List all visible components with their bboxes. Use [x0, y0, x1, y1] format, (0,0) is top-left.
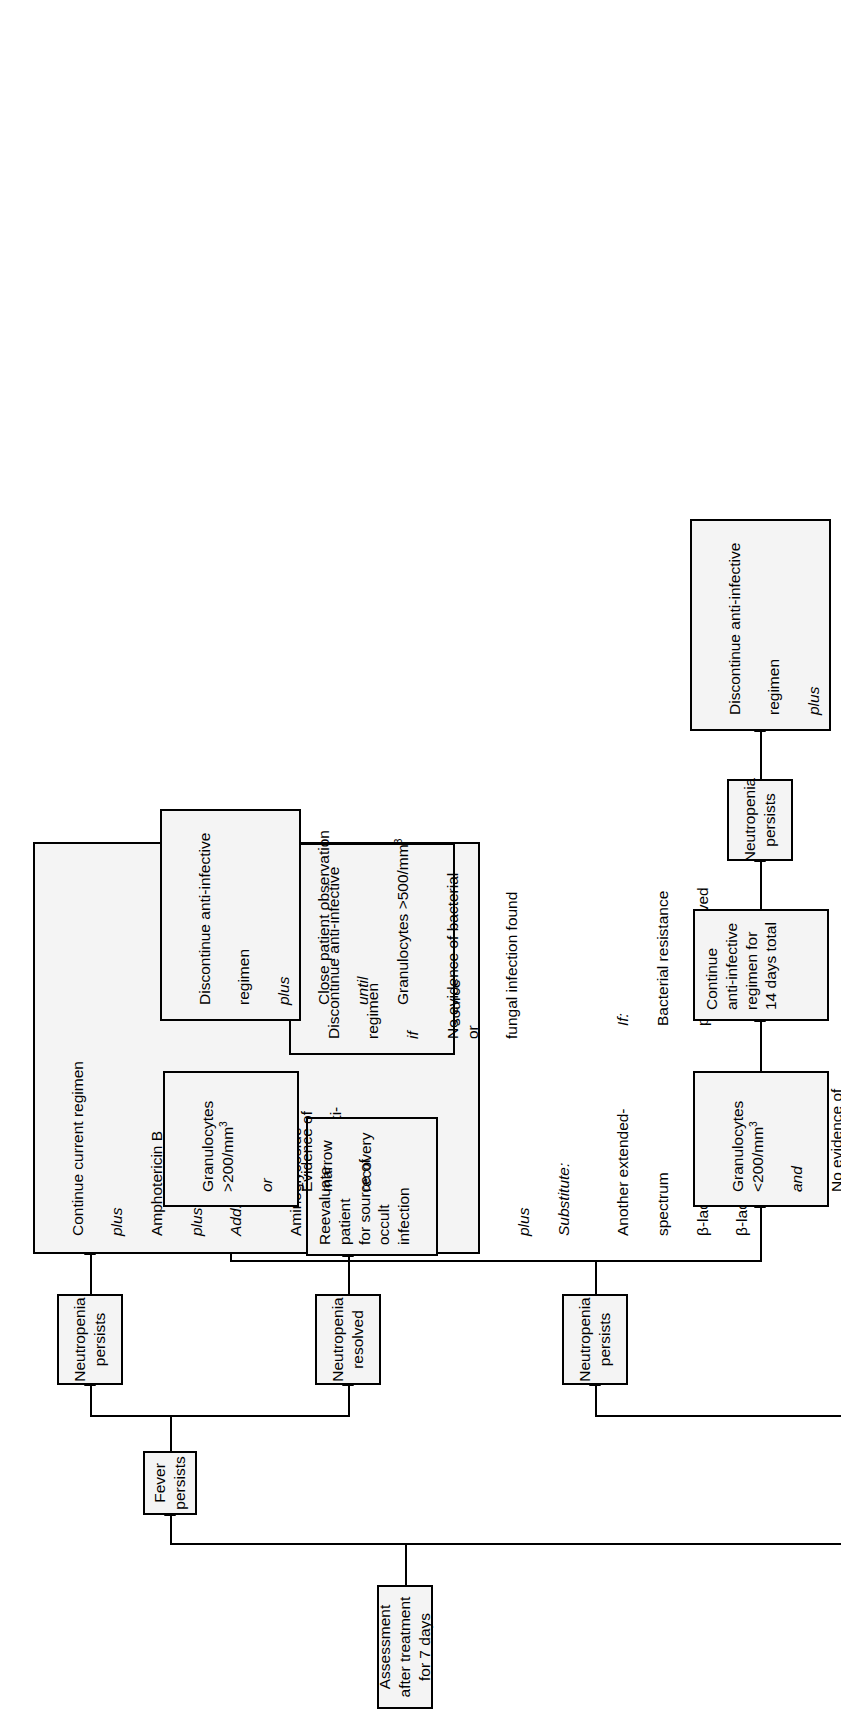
connector-fever-persists-out: [170, 1417, 172, 1451]
discontinue-if-line-4: No evidence of bacterial or: [443, 859, 483, 1039]
gt200-line-2-or: or: [257, 1086, 277, 1192]
connector-fr-persists-branch: [230, 1260, 762, 1262]
gt200-action-text-6: Granulocytes >500/mm: [394, 844, 411, 1005]
gt200-action-line-1: Discontinue anti-infective: [195, 825, 215, 1005]
connector-fever-resolved-branch: [595, 1415, 841, 1417]
connector-to-fp-neut-resolved: [348, 1385, 350, 1417]
node-fever-persists[interactable]: Fever persists: [143, 1451, 197, 1515]
node-granulocytes-gt-200[interactable]: Granulocytes >200/mm3 or Evidence of mar…: [163, 1071, 299, 1207]
gt200-line-3: Evidence of marrow: [297, 1086, 337, 1192]
tail-action-line-2: regimen: [764, 535, 784, 715]
regimen-line-21-bacterial-resistance: Bacterial resistance: [653, 860, 673, 1026]
node-fp-neutropenia-persists-label: Neutropenia persists: [70, 1297, 110, 1381]
node-assessment-root-label: Assessment after treatment for 7 days: [375, 1596, 434, 1698]
connector-to-fr-neut-persists: [595, 1385, 597, 1417]
regimen-line-1: Continue current regimen: [68, 860, 88, 1236]
connector-root-branch-vertical: [170, 1543, 841, 1545]
gt200-action-line-2: regimen: [234, 825, 254, 1005]
lt200-line-3: No evidence of marrow: [827, 1086, 841, 1192]
gt200-text-1: Granulocytes >200/mm: [199, 1101, 236, 1192]
node-continue-14-days[interactable]: Continue anti-infective regimen for 14 d…: [693, 909, 829, 1021]
discontinue-if-line-5: fungal infection found: [502, 859, 522, 1039]
node-granulocytes-lt-200[interactable]: Granulocytes <200/mm3 and No evidence of…: [693, 1071, 829, 1207]
connector-fp-persists-to-bigbox: [90, 1254, 92, 1294]
regimen-line-17-spectrum: spectrum: [653, 1070, 673, 1236]
node-tail-neutropenia-persists-label: Neutropenia persists: [740, 778, 780, 862]
node-gt200-action-discontinue[interactable]: Discontinue anti-infective regimen plus …: [160, 809, 301, 1021]
gt200-action-line-5-until: until: [353, 825, 373, 1005]
regimen-line-2-plus: plus: [107, 860, 127, 1236]
node-fp-neutropenia-resolved[interactable]: Neutropenia resolved: [315, 1294, 381, 1385]
node-assessment-root[interactable]: Assessment after treatment for 7 days: [377, 1585, 433, 1709]
node-tail-action-discontinue[interactable]: Discontinue anti-infective regimen plus …: [690, 519, 831, 731]
node-fr-neutropenia-persists[interactable]: Neutropenia persists: [562, 1294, 628, 1385]
lt200-line-1: Granulocytes <200/mm3: [728, 1086, 768, 1192]
connector-tail-persists-to-action: [760, 731, 762, 779]
gt200-line-4: recovery: [356, 1086, 376, 1192]
node-continue-14-days-label: Continue anti-infective regimen for 14 d…: [702, 920, 781, 1010]
rotated-flowchart-wrapper: Assessment after treatment for 7 days Fe…: [0, 0, 841, 1729]
gt200-action-sup-1: 3: [393, 839, 404, 845]
flowchart-canvas: Assessment after treatment for 7 days Fe…: [0, 0, 841, 1729]
gt200-line-1: Granulocytes >200/mm3: [198, 1086, 238, 1192]
regimen-line-16-another-extended: Another extended-: [613, 1070, 633, 1236]
lt200-sup-1: 3: [748, 1121, 759, 1127]
tail-action-line-1: Discontinue anti-infective: [725, 535, 745, 715]
lt200-text-1: Granulocytes <200/mm: [729, 1101, 766, 1192]
regimen-line-20-if: If:: [613, 860, 633, 1026]
gt200-action-line-3-plus: plus: [274, 825, 294, 1005]
connector-fever-persists-branch: [90, 1415, 350, 1417]
connector-to-fever-persists: [170, 1515, 172, 1545]
lt200-line-2-and: and: [787, 1086, 807, 1192]
gt200-action-line-4: Close patient observation: [314, 825, 334, 1005]
gt200-sup-1: 3: [218, 1121, 229, 1127]
connector-root-out: [405, 1545, 407, 1585]
node-fever-persists-label: Fever persists: [150, 1456, 190, 1509]
node-fp-neutropenia-resolved-label: Neutropenia resolved: [328, 1297, 368, 1381]
connector-to-fp-neut-persists: [90, 1385, 92, 1417]
connector-fr-persists-out: [595, 1262, 597, 1294]
node-fp-neutropenia-persists[interactable]: Neutropenia persists: [57, 1294, 123, 1385]
node-tail-neutropenia-persists[interactable]: Neutropenia persists: [727, 779, 793, 861]
gt200-action-line-6: Granulocytes >500/mm3: [393, 825, 413, 1005]
regimen-line-15-substitute: Substitute:: [554, 860, 574, 1236]
tail-action-line-3-plus: plus: [804, 535, 824, 715]
node-fr-neutropenia-persists-label: Neutropenia persists: [575, 1297, 615, 1381]
